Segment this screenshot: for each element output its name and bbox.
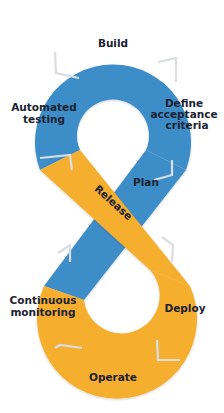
devops-figure-eight-diagram: Build Define acceptance criteria Plan Au… (0, 0, 224, 413)
svg-text:criteria: criteria (165, 119, 208, 131)
divider-build-define (158, 58, 176, 82)
stage-label-deploy: Deploy (164, 302, 205, 314)
stage-label-operate: Operate (89, 371, 137, 383)
stage-label-continuous-monitoring: Continuous monitoring (10, 294, 77, 318)
svg-text:Continuous: Continuous (10, 294, 77, 306)
stage-label-build: Build (98, 37, 128, 49)
divider-build-automated (55, 52, 79, 78)
svg-text:monitoring: monitoring (10, 306, 75, 318)
svg-text:Automated: Automated (11, 101, 77, 113)
stage-label-plan: Plan (133, 176, 159, 188)
svg-text:testing: testing (23, 113, 65, 125)
